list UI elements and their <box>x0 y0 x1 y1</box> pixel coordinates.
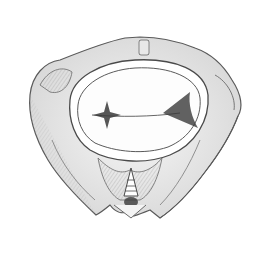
illustration-canvas <box>0 0 261 264</box>
pelvis-sketch <box>0 0 261 264</box>
pubic-symphysis <box>139 40 149 55</box>
